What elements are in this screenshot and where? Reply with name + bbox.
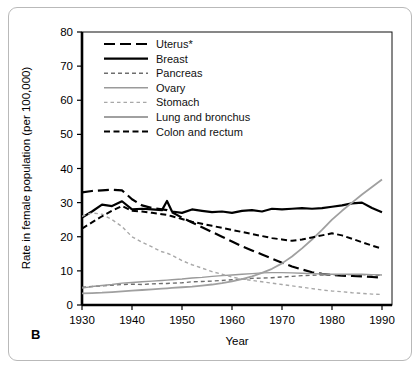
legend-label: Breast	[156, 53, 188, 65]
y-axis-title: Rate in female population (per 100,000)	[20, 67, 32, 270]
x-tick-label: 1950	[169, 314, 195, 326]
x-tick-label: 1970	[269, 314, 295, 326]
y-tick-label: 50	[60, 128, 73, 140]
y-tick-label: 0	[67, 299, 73, 311]
x-axis-ticks: 1930194019501960197019801990	[69, 305, 395, 326]
legend-label: Pancreas	[156, 67, 203, 79]
legend-label: Colon and rectum	[156, 126, 243, 138]
y-tick-label: 20	[60, 231, 73, 243]
x-tick-label: 1990	[369, 314, 395, 326]
legend-label: Ovary	[156, 82, 186, 94]
figure-panel-b: 01020304050607080 1930194019501960197019…	[0, 0, 420, 369]
x-tick-label: 1930	[69, 314, 95, 326]
legend-label: Lung and bronchus	[156, 111, 251, 123]
y-axis-ticks: 01020304050607080	[60, 26, 82, 311]
x-tick-label: 1940	[119, 314, 145, 326]
y-tick-label: 30	[60, 197, 73, 209]
x-axis-title: Year	[225, 335, 248, 347]
legend-label: Uterus*	[156, 38, 193, 50]
x-tick-label: 1960	[219, 314, 245, 326]
y-tick-label: 80	[60, 26, 73, 38]
y-tick-label: 40	[60, 163, 73, 175]
data-series-layer	[82, 179, 382, 294]
y-tick-label: 70	[60, 60, 73, 72]
chart-legend: Uterus*BreastPancreasOvaryStomachLung an…	[104, 38, 251, 138]
x-tick-label: 1980	[319, 314, 345, 326]
series-line	[82, 190, 382, 278]
y-tick-label: 60	[60, 94, 73, 106]
chart-canvas: 01020304050607080 1930194019501960197019…	[0, 0, 420, 369]
y-tick-label: 10	[60, 265, 73, 277]
panel-label: B	[31, 327, 40, 342]
legend-label: Stomach	[156, 96, 199, 108]
